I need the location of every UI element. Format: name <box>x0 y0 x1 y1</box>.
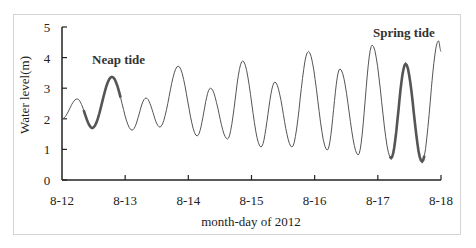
x-tick-label: 8-17 <box>366 193 390 208</box>
y-tick-label: 5 <box>44 20 51 35</box>
y-axis-title: Water level(m) <box>17 56 32 134</box>
y-tick-label: 4 <box>44 51 51 66</box>
x-tick-label: 8-12 <box>50 193 74 208</box>
x-tick-label: 8-18 <box>429 193 453 208</box>
y-tick-label: 3 <box>44 81 51 96</box>
y-tick-label: 1 <box>44 142 51 157</box>
neap-tide-highlight <box>84 77 121 128</box>
water-level-chart: 012345 8-128-138-148-158-168-178-18 Neap… <box>0 0 476 248</box>
y-axis-ticks: 012345 <box>44 20 67 188</box>
x-tick-label: 8-15 <box>240 193 264 208</box>
y-tick-label: 0 <box>44 173 51 188</box>
x-axis-title: month-day of 2012 <box>201 214 301 229</box>
spring-tide-highlight <box>390 64 425 162</box>
spring-tide-label: Spring tide <box>373 25 435 40</box>
y-tick-label: 2 <box>44 112 51 127</box>
neap-tide-label: Neap tide <box>92 52 145 67</box>
x-tick-label: 8-14 <box>176 193 200 208</box>
x-tick-label: 8-13 <box>113 193 137 208</box>
x-tick-label: 8-16 <box>303 193 327 208</box>
